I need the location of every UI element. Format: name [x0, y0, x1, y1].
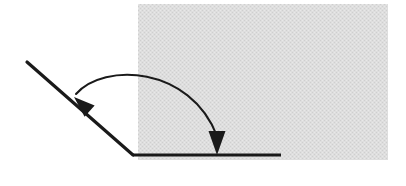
angle-rotation-diagram: [0, 0, 406, 186]
diagram-canvas: [0, 0, 406, 186]
gray-shaded-rectangle: [138, 4, 388, 160]
